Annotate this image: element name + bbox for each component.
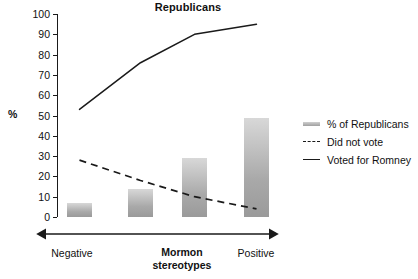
y-tick-label: 10 — [38, 192, 50, 202]
legend-item-did-not-vote: Did not vote — [303, 133, 418, 151]
bar-swatch-icon — [303, 115, 321, 133]
y-tick-label: 90 — [38, 29, 50, 39]
solid-line-icon — [303, 151, 321, 169]
x-axis-title-line2: stereotypes — [132, 259, 232, 272]
legend-item-bar: % of Republicans — [303, 115, 418, 133]
y-tick-label: 30 — [38, 151, 50, 161]
line-series-overlay — [57, 14, 269, 217]
y-tick-label: 100 — [32, 9, 50, 19]
chart-container: Republicans % 0102030405060708090100 Neg… — [0, 0, 418, 279]
y-axis-title: % — [8, 108, 17, 120]
y-tick-label: 50 — [38, 111, 50, 121]
x-label-negative: Negative — [32, 247, 112, 259]
chart-title: Republicans — [128, 1, 248, 13]
dashed-line-icon — [303, 133, 321, 151]
x-axis-title-line1: Mormon — [132, 246, 232, 259]
legend-item-voted-romney: Voted for Romney — [303, 151, 418, 169]
y-tick-label: 60 — [38, 90, 50, 100]
y-tick-label: 20 — [38, 171, 50, 181]
x-axis-arrow — [40, 228, 275, 242]
legend-label-did-not-vote: Did not vote — [327, 136, 383, 148]
plot-area: 0102030405060708090100 — [57, 14, 269, 217]
x-axis-title: Mormon stereotypes — [132, 246, 232, 272]
y-tick-label: 0 — [44, 212, 50, 222]
y-tick-label: 70 — [38, 70, 50, 80]
chart-legend: % of Republicans Did not vote Voted for … — [303, 115, 418, 169]
y-tick-mark — [53, 217, 57, 218]
y-tick-label: 40 — [38, 131, 50, 141]
legend-label-bar: % of Republicans — [327, 118, 409, 130]
did-not-vote-line — [80, 160, 257, 209]
legend-label-voted-romney: Voted for Romney — [327, 154, 411, 166]
voted-for-romney-line — [80, 24, 257, 109]
y-tick-label: 80 — [38, 50, 50, 60]
